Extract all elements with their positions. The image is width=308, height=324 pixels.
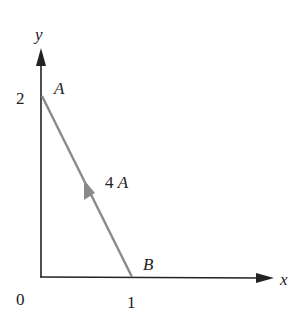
x-axis-arrow-icon <box>256 273 274 283</box>
diagram: y x 0 1 2 A B 4 A <box>0 0 308 324</box>
point-b-label: B <box>143 255 154 274</box>
current-unit: A <box>117 173 129 192</box>
point-a-label: A <box>53 79 65 98</box>
x-tick-label: 1 <box>127 293 136 312</box>
y-tick-label: 2 <box>16 89 25 108</box>
y-axis-label: y <box>33 25 43 44</box>
current-label: 4 A <box>105 173 129 192</box>
y-axis-arrow-icon <box>36 48 46 66</box>
x-axis-label: x <box>279 270 288 289</box>
current-value: 4 <box>105 173 118 192</box>
x-axis <box>40 277 260 278</box>
origin-label: 0 <box>16 290 25 309</box>
